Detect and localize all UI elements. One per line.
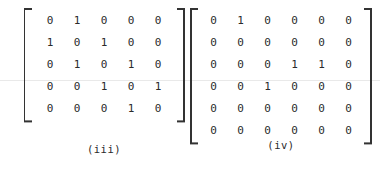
right-bracket-icon bbox=[176, 8, 185, 122]
figure-matrix-iii: 0100010100010100010100010 (iii) bbox=[18, 0, 190, 122]
figure-caption-iii: (iii) bbox=[18, 143, 190, 155]
matrix-cell: 0 bbox=[308, 10, 335, 32]
matrix-cell: 0 bbox=[227, 76, 254, 98]
matrix-cell: 0 bbox=[91, 54, 118, 76]
matrix-cell: 0 bbox=[37, 10, 64, 32]
matrix-cell: 0 bbox=[91, 98, 118, 120]
matrix-cell: 1 bbox=[118, 98, 145, 120]
matrix-cell: 0 bbox=[37, 98, 64, 120]
matrix-cell: 0 bbox=[254, 54, 281, 76]
matrix-cell: 0 bbox=[200, 10, 227, 32]
matrix-cell: 0 bbox=[335, 54, 362, 76]
matrix-cell: 1 bbox=[91, 76, 118, 98]
matrix-cell: 1 bbox=[64, 10, 91, 32]
matrix-cell: 1 bbox=[37, 32, 64, 54]
matrix-cell: 0 bbox=[64, 98, 91, 120]
matrix-cell: 0 bbox=[335, 98, 362, 120]
matrix-cell: 0 bbox=[64, 76, 91, 98]
matrix-cell: 0 bbox=[118, 32, 145, 54]
matrix-cell: 0 bbox=[227, 54, 254, 76]
matrix-cell: 0 bbox=[145, 10, 172, 32]
matrix-cell: 1 bbox=[227, 10, 254, 32]
matrix-cell: 0 bbox=[37, 54, 64, 76]
left-bracket-icon bbox=[190, 8, 196, 144]
matrix-cell: 1 bbox=[64, 54, 91, 76]
matrix-iv-container: 010000000000000110001000000000000000 bbox=[190, 0, 372, 144]
matrix-cell: 0 bbox=[118, 10, 145, 32]
right-bracket-icon bbox=[366, 8, 372, 144]
matrix-cell: 0 bbox=[335, 32, 362, 54]
figure-matrix-iv: 010000000000000110001000000000000000 (iv… bbox=[190, 0, 372, 144]
matrix-cell: 1 bbox=[118, 54, 145, 76]
figure-caption-iv: (iv) bbox=[190, 139, 372, 151]
matrix-cell: 0 bbox=[64, 32, 91, 54]
matrix-cell: 0 bbox=[281, 98, 308, 120]
matrix-cell: 0 bbox=[200, 32, 227, 54]
matrix-cell: 0 bbox=[281, 76, 308, 98]
matrix-cell: 1 bbox=[281, 54, 308, 76]
matrix-cell: 0 bbox=[145, 54, 172, 76]
matrix-cell: 0 bbox=[91, 10, 118, 32]
matrix-cell: 0 bbox=[145, 98, 172, 120]
matrix-iii-container: 0100010100010100010100010 bbox=[18, 0, 190, 122]
matrix-cell: 0 bbox=[227, 32, 254, 54]
matrix-cell: 1 bbox=[145, 76, 172, 98]
matrix-cell: 1 bbox=[254, 76, 281, 98]
matrix-figure-row: 0100010100010100010100010 (iii) 01000000… bbox=[0, 0, 380, 169]
matrix-cell: 0 bbox=[254, 10, 281, 32]
matrix-cell: 0 bbox=[227, 98, 254, 120]
left-bracket-icon bbox=[24, 8, 33, 122]
matrix-iii-grid: 0100010100010100010100010 bbox=[33, 8, 176, 122]
matrix-cell: 0 bbox=[335, 76, 362, 98]
matrix-cell: 0 bbox=[335, 10, 362, 32]
matrix-iv-grid: 010000000000000110001000000000000000 bbox=[196, 8, 366, 144]
matrix-cell: 0 bbox=[200, 54, 227, 76]
matrix-cell: 0 bbox=[254, 32, 281, 54]
matrix-cell: 0 bbox=[281, 32, 308, 54]
matrix-cell: 0 bbox=[308, 98, 335, 120]
matrix-cell: 0 bbox=[118, 76, 145, 98]
matrix-cell: 0 bbox=[37, 76, 64, 98]
matrix-cell: 1 bbox=[91, 32, 118, 54]
matrix-cell: 1 bbox=[308, 54, 335, 76]
matrix-cell: 0 bbox=[200, 98, 227, 120]
matrix-cell: 0 bbox=[308, 76, 335, 98]
matrix-cell: 0 bbox=[254, 98, 281, 120]
matrix-cell: 0 bbox=[145, 32, 172, 54]
matrix-cell: 0 bbox=[200, 76, 227, 98]
matrix-cell: 0 bbox=[281, 10, 308, 32]
matrix-cell: 0 bbox=[308, 32, 335, 54]
